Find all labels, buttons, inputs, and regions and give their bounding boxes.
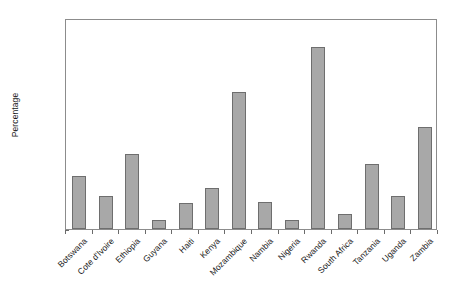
x-tick-label-text: Ethiopia	[114, 236, 143, 265]
bar	[205, 188, 219, 229]
bar	[365, 164, 379, 229]
x-tick-label-text: Nigeria	[276, 236, 302, 262]
bar-slot	[93, 20, 120, 229]
x-tick-mark	[278, 230, 279, 234]
bar-chart-figure: Percentage 0.000.100.200.300.400.500.60 …	[0, 0, 460, 284]
bar	[125, 154, 139, 229]
x-tick-mark	[65, 230, 66, 234]
x-tick-label-text: Guyana	[141, 236, 169, 264]
bar-slot	[66, 20, 93, 229]
bar	[152, 220, 166, 229]
bar-slot	[279, 20, 306, 229]
x-tick-mark	[171, 230, 172, 234]
x-tick-label-text: Haiti	[177, 236, 196, 255]
x-tick-mark	[437, 230, 438, 234]
bar-slot	[146, 20, 173, 229]
bar-slot	[225, 20, 252, 229]
bar	[311, 47, 325, 229]
bar-series	[66, 20, 436, 229]
bar-slot	[332, 20, 359, 229]
x-tick-label-text: Zambia	[408, 236, 435, 263]
x-tick-mark	[92, 230, 93, 234]
x-tick-mark	[410, 230, 411, 234]
bar	[232, 92, 246, 229]
x-tick-mark	[251, 230, 252, 234]
x-tick-mark	[118, 230, 119, 234]
bar-slot	[172, 20, 199, 229]
bar-slot	[385, 20, 412, 229]
bar	[418, 127, 432, 229]
y-axis-title: Percentage	[0, 0, 30, 230]
bar-slot	[119, 20, 146, 229]
x-tick-mark	[331, 230, 332, 234]
bar-slot	[252, 20, 279, 229]
bar-slot	[411, 20, 438, 229]
x-tick-mark	[304, 230, 305, 234]
x-tick-mark	[357, 230, 358, 234]
x-tick-label-text: Kenya	[198, 236, 222, 260]
bar	[338, 214, 352, 229]
bar	[258, 202, 272, 229]
x-tick-label-text: Uganda	[380, 236, 408, 264]
bar	[99, 196, 113, 229]
bar-slot	[199, 20, 226, 229]
bar	[179, 203, 193, 229]
bar	[391, 196, 405, 229]
bar	[72, 176, 86, 229]
x-tick-mark	[224, 230, 225, 234]
x-tick-mark	[384, 230, 385, 234]
bar	[285, 220, 299, 229]
y-axis-title-text: Percentage	[10, 93, 20, 137]
plot-area	[65, 19, 437, 230]
x-tick-label-text: Tanzania	[350, 236, 381, 267]
bar-slot	[358, 20, 385, 229]
x-tick-label-text: Nambia	[248, 236, 276, 264]
x-tick-mark	[198, 230, 199, 234]
bar-slot	[305, 20, 332, 229]
x-tick-mark	[145, 230, 146, 234]
